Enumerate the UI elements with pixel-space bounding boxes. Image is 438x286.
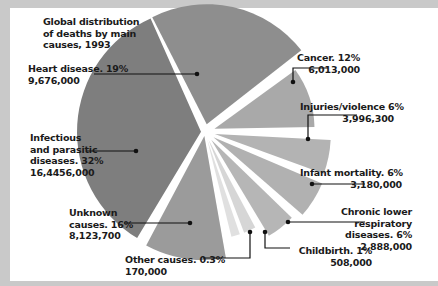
label-infectious: Infectious and parasitic diseases. 32% 1… xyxy=(30,132,103,178)
leader-dot-other xyxy=(248,230,253,235)
leader-dot-cancer xyxy=(291,80,296,85)
label-line: 8,123,700 xyxy=(69,230,133,242)
leader-dot-childbirth xyxy=(263,230,268,235)
label-childbirth: Childbirth. 1% 508,000 xyxy=(290,245,372,268)
label-line: 170,000 xyxy=(125,266,225,278)
label-line: Cancer. 12% xyxy=(294,52,360,64)
label-line: Heart disease. 19% xyxy=(28,63,128,75)
label-line: 508,000 xyxy=(290,257,372,269)
label-line: Unknown xyxy=(69,207,133,219)
label-line: 6,013,000 xyxy=(294,64,360,76)
label-line: Infant mortality. 6% xyxy=(300,167,402,179)
label-infant-mortality: Infant mortality. 6% 3,180,000 xyxy=(300,167,402,190)
label-line: and parasitic xyxy=(30,144,103,156)
label-line: 9,676,000 xyxy=(28,75,128,87)
label-unknown: Unknown causes. 16% 8,123,700 xyxy=(69,207,133,242)
title-line: Global distribution xyxy=(43,16,139,28)
label-line: Injuries/violence 6% xyxy=(300,101,394,113)
leader-dot-infectious xyxy=(134,149,139,154)
label-line: causes. 16% xyxy=(69,219,133,231)
label-cancer: Cancer. 12% 6,013,000 xyxy=(294,52,360,75)
leader-dot-unknown xyxy=(188,221,193,226)
label-line: 3,996,300 xyxy=(300,113,394,125)
label-line: 16,4456,000 xyxy=(30,167,103,179)
label-line: Infectious xyxy=(30,132,103,144)
leader-dot-heart xyxy=(195,72,200,77)
label-line: 3,180,000 xyxy=(300,179,402,191)
label-line: respiratory xyxy=(340,218,412,230)
chart-title: Global distribution of deaths by main ca… xyxy=(43,16,139,51)
label-line: Childbirth. 1% xyxy=(290,245,372,257)
leader-dot-injuries xyxy=(306,137,311,142)
label-line: diseases. 32% xyxy=(30,155,103,167)
label-line: Other causes. 0.3% xyxy=(125,254,225,266)
title-line: of deaths by main xyxy=(43,28,139,40)
label-heart-disease: Heart disease. 19% 9,676,000 xyxy=(28,63,128,86)
leader-dot-chronic xyxy=(286,220,291,225)
label-injuries: Injuries/violence 6% 3,996,300 xyxy=(300,101,394,124)
label-other-causes: Other causes. 0.3% 170,000 xyxy=(125,254,225,277)
title-line: causes, 1993 xyxy=(43,39,139,51)
label-line: Chronic lower xyxy=(340,206,412,218)
label-line: diseases. 6% xyxy=(340,229,412,241)
